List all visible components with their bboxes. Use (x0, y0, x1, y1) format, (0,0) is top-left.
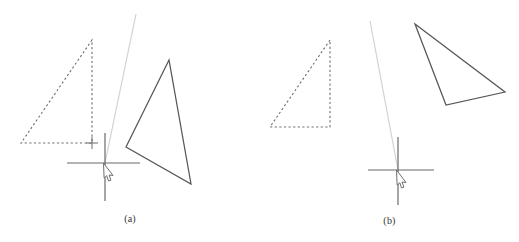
figure-panel-b: (b) (260, 0, 519, 242)
corner-tick-marker (86, 137, 98, 149)
guide-ray (370, 21, 398, 170)
crosshair-axes (368, 137, 434, 205)
figure-panel-a: (a) (0, 0, 260, 242)
panel-a-drawing (0, 0, 260, 242)
panel-b-caption: (b) (260, 215, 519, 227)
panel-b-drawing (260, 0, 519, 242)
figure-root: (a) (b) (0, 0, 519, 242)
guide-ray (105, 14, 136, 163)
dashed-triangle (270, 40, 330, 127)
dashed-triangle (21, 40, 92, 143)
solid-triangle (126, 60, 191, 184)
panel-a-caption: (a) (0, 213, 260, 225)
solid-triangle (415, 24, 505, 105)
